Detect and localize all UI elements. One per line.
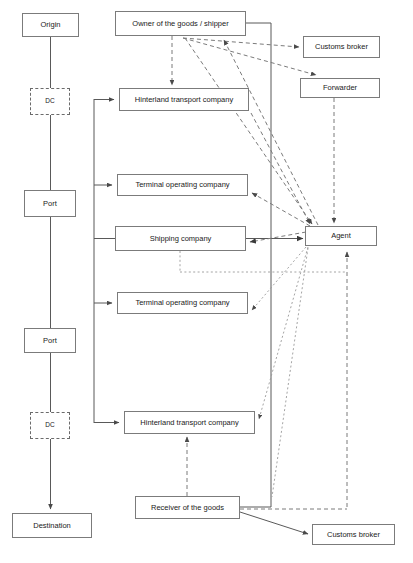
node-customs-broker-bottom[interactable]: Customs broker xyxy=(312,524,395,545)
node-receiver-label: Receiver of the goods xyxy=(151,504,224,512)
node-customs-broker-bottom-label: Customs broker xyxy=(327,531,380,539)
node-agent-label: Agent xyxy=(331,232,351,240)
node-terminal-operating-company-2[interactable]: Terminal operating company xyxy=(117,292,248,314)
node-dc-destination-label: DC xyxy=(45,422,54,429)
node-port-destination-label: Port xyxy=(43,337,57,345)
node-hinterland-transport-company-2[interactable]: Hinterland transport company xyxy=(124,411,255,434)
edge-owner-agent xyxy=(185,38,312,224)
node-shipping-company[interactable]: Shipping company xyxy=(115,226,246,251)
node-dc-destination[interactable]: DC xyxy=(30,412,70,439)
supply-chain-diagram: Origin DC Port Port DC Destination Owner… xyxy=(0,0,413,563)
node-agent[interactable]: Agent xyxy=(305,226,377,246)
node-port-destination[interactable]: Port xyxy=(24,328,76,353)
edge-hinterland1-agent xyxy=(251,113,310,224)
node-hinterland-1-label: Hinterland transport company xyxy=(135,96,233,104)
edge-agent-shipping xyxy=(250,232,306,242)
node-forwarder[interactable]: Forwarder xyxy=(300,78,380,98)
edge-agent-receiver-diagonal xyxy=(272,248,308,497)
node-port-origin-label: Port xyxy=(43,200,57,208)
node-owner-shipper[interactable]: Owner of the goods / shipper xyxy=(115,11,246,36)
node-shipping-company-label: Shipping company xyxy=(150,235,212,243)
node-forwarder-label: Forwarder xyxy=(323,84,357,92)
node-hinterland-transport-company-1[interactable]: Hinterland transport company xyxy=(119,88,249,111)
node-origin-label: Origin xyxy=(40,21,60,29)
node-dc-origin[interactable]: DC xyxy=(30,88,70,115)
node-customs-broker-top-label: Customs broker xyxy=(315,43,368,51)
edge-receiver-customsbroker xyxy=(240,512,308,534)
edge-agent-terminal1 xyxy=(252,193,310,226)
node-terminal-2-label: Terminal operating company xyxy=(135,299,229,307)
node-terminal-operating-company-1[interactable]: Terminal operating company xyxy=(117,174,248,196)
node-hinterland-2-label: Hinterland transport company xyxy=(140,419,238,427)
node-receiver-of-the-goods[interactable]: Receiver of the goods xyxy=(135,496,240,519)
node-owner-shipper-label: Owner of the goods / shipper xyxy=(132,20,228,28)
node-destination[interactable]: Destination xyxy=(12,513,92,538)
node-customs-broker-top[interactable]: Customs broker xyxy=(303,36,380,58)
node-origin[interactable]: Origin xyxy=(22,13,79,37)
node-dc-origin-label: DC xyxy=(45,98,54,105)
node-port-origin[interactable]: Port xyxy=(24,190,76,217)
node-destination-label: Destination xyxy=(33,522,71,530)
edge-agent-hinterland2 xyxy=(259,247,308,419)
edge-agent-terminal2 xyxy=(252,247,306,310)
node-terminal-1-label: Terminal operating company xyxy=(135,181,229,189)
